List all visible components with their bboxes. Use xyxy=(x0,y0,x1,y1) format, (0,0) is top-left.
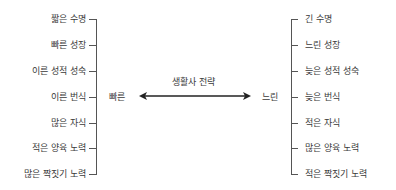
left-trait: 빠른 성장 xyxy=(51,39,86,51)
left-trait: 짧은 수명 xyxy=(51,13,86,25)
left-tick xyxy=(89,174,96,175)
left-trait: 이른 번식 xyxy=(51,91,86,103)
left-tick xyxy=(89,148,96,149)
right-tick xyxy=(291,45,298,46)
right-tick xyxy=(291,174,298,175)
left-trait: 많은 자식 xyxy=(51,117,86,129)
right-trait: 적은 자식 xyxy=(305,117,340,129)
diagram-title: 생활사 전략 xyxy=(172,76,215,88)
right-trait: 긴 수명 xyxy=(305,13,332,25)
left-bracket-line xyxy=(96,19,97,175)
left-tick xyxy=(89,71,96,72)
right-tick xyxy=(291,123,298,124)
left-trait: 이른 성적 성숙 xyxy=(32,65,86,77)
left-tick xyxy=(89,97,96,98)
left-pole-label: 빠른 xyxy=(109,91,125,103)
left-tick xyxy=(89,123,96,124)
right-tick xyxy=(291,97,298,98)
right-tick xyxy=(291,71,298,72)
right-tick xyxy=(291,19,298,20)
double-arrow-icon xyxy=(139,90,251,102)
left-tick xyxy=(89,19,96,20)
right-trait: 느린 성장 xyxy=(305,39,340,51)
right-tick xyxy=(291,148,298,149)
right-trait: 적은 짝짓기 노력 xyxy=(305,168,367,180)
left-trait: 많은 짝짓기 노력 xyxy=(24,168,86,180)
right-trait: 늦은 성적 성숙 xyxy=(305,65,359,77)
right-pole-label: 느린 xyxy=(262,91,278,103)
right-trait: 많은 양육 노력 xyxy=(305,142,359,154)
left-trait: 적은 양육 노력 xyxy=(32,142,86,154)
right-trait: 늦은 번식 xyxy=(305,91,340,103)
left-tick xyxy=(89,45,96,46)
